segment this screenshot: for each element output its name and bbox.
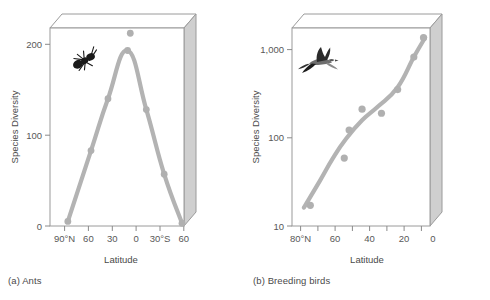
panel-caption-a: (a) Ants <box>8 275 42 286</box>
x-axis-ticks <box>65 226 184 231</box>
x-tick-label: 60 <box>83 233 94 244</box>
y-tick-label: 10 <box>273 221 284 232</box>
x-tick-label: 90°N <box>54 233 75 244</box>
data-point <box>358 106 365 113</box>
x-axis-title: Latitude <box>350 254 384 265</box>
ants-outlier-points <box>127 30 134 37</box>
data-point <box>64 218 71 225</box>
x-axis-ticks <box>301 226 422 231</box>
y-tick-label: 100 <box>268 132 284 143</box>
x-tick-label: 60 <box>179 233 190 244</box>
data-point <box>88 147 95 154</box>
x-tick-label: 60 <box>330 233 341 244</box>
x-tick-label: 30°S <box>150 233 171 244</box>
x-tick-label: 0 <box>133 233 138 244</box>
x-tick-label: 20 <box>399 233 410 244</box>
x-tick-label: 40 <box>364 233 375 244</box>
figure-container: 0 100 200 Species Diversity 90°N 60 30 0… <box>0 0 490 300</box>
y-axis-title: Species Diversity <box>9 90 20 163</box>
data-point <box>410 53 417 60</box>
y-tick-label: 0 <box>37 221 42 232</box>
outlier-data-point <box>127 30 134 37</box>
data-point <box>143 106 150 113</box>
y-axis-ticks <box>45 44 50 226</box>
panel-breeding-birds: 10 100 1,000 Species Diversity 80°N 60 4… <box>245 0 490 300</box>
box-top-face <box>292 14 442 28</box>
y-tick-label: 1,000 <box>260 44 284 55</box>
data-point <box>179 220 186 227</box>
box-right-face <box>430 14 442 226</box>
ants-chart-svg: 0 100 200 Species Diversity 90°N 60 30 0… <box>0 0 245 300</box>
data-point <box>346 126 353 133</box>
x-tick-label: 30 <box>107 233 118 244</box>
x-axis-title: Latitude <box>104 254 138 265</box>
data-point <box>420 34 427 41</box>
data-point <box>124 47 131 54</box>
x-tick-label: 80°N <box>290 233 311 244</box>
box-right-face <box>184 14 196 226</box>
box-top-face <box>50 14 196 28</box>
y-tick-label: 200 <box>26 39 42 50</box>
data-point <box>105 95 112 102</box>
birds-chart-svg: 10 100 1,000 Species Diversity 80°N 60 4… <box>245 0 490 300</box>
data-point <box>307 202 314 209</box>
panel-caption-b: (b) Breeding birds <box>253 275 330 286</box>
y-axis-title: Species Diversity <box>250 90 261 163</box>
panel-ants: 0 100 200 Species Diversity 90°N 60 30 0… <box>0 0 245 300</box>
y-axis-ticks <box>287 50 292 226</box>
data-point <box>341 155 348 162</box>
data-point <box>161 171 168 178</box>
x-tick-label: 0 <box>430 233 435 244</box>
data-point <box>378 110 385 117</box>
plot-area <box>50 28 184 226</box>
data-point <box>394 86 401 93</box>
y-tick-label: 100 <box>26 130 42 141</box>
